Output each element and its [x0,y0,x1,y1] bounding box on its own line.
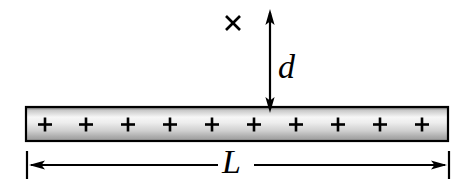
distance-d-arrow [265,9,274,113]
distance-d-label: d [278,50,295,84]
length-L-label: L [222,145,241,179]
physics-diagram-figure: d L [0,0,471,185]
field-point-marker [226,16,240,30]
